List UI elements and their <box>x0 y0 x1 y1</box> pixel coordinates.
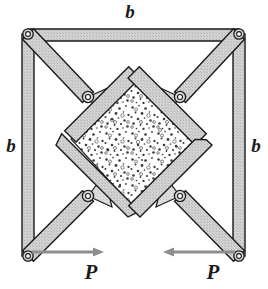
pin-joint-bottom-right <box>234 251 244 261</box>
frame-diagram-canvas: b b b P P <box>0 0 268 289</box>
pin-joint-inner-top-left <box>82 91 93 102</box>
pin-joint-top-right <box>234 29 244 39</box>
label-right-dimension-b: b <box>251 135 261 156</box>
outer-frame-top-bar <box>28 29 239 41</box>
label-top-dimension-b: b <box>125 1 135 22</box>
outer-frame-right-bar <box>233 34 245 256</box>
force-labels: P P <box>84 260 220 284</box>
pin-joint-bottom-left <box>23 251 33 261</box>
pin-joint-top-left <box>23 29 33 39</box>
outer-frame-left-bar <box>22 34 34 256</box>
force-arrows <box>32 248 235 257</box>
engineering-figure: b b b P P <box>0 0 268 289</box>
label-force-left-p: P <box>84 260 98 284</box>
label-left-dimension-b: b <box>6 135 16 156</box>
label-force-right-p: P <box>206 260 220 284</box>
pin-joint-inner-bottom-left <box>82 190 93 201</box>
pin-joint-inner-top-right <box>174 91 185 102</box>
pin-joint-inner-bottom-right <box>174 190 185 201</box>
